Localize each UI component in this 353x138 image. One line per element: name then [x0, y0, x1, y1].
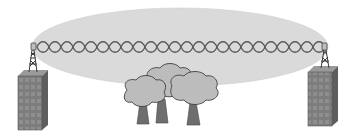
link-diagram	[0, 0, 353, 138]
right-antenna-dish	[322, 43, 327, 50]
right-building	[308, 66, 338, 126]
left-antenna-dish	[31, 43, 36, 50]
tree-right	[171, 72, 218, 126]
left-building	[18, 70, 48, 130]
